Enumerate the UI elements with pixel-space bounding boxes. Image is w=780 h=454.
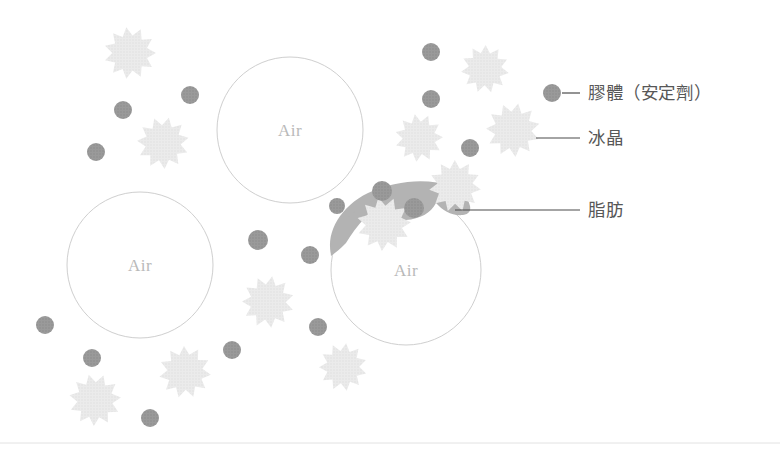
colloid-particle	[36, 316, 54, 334]
colloid-particle	[83, 349, 101, 367]
colloid-particle	[461, 139, 479, 157]
colloid-particle	[223, 341, 241, 359]
ice-crystal	[486, 104, 539, 157]
ice-crystal	[242, 276, 293, 327]
colloid-particle	[404, 198, 424, 218]
colloid-particle	[248, 230, 268, 250]
ice-crystal	[319, 343, 366, 391]
diagram-canvas: AirAirAir 膠體（安定劑）冰晶脂肪	[0, 0, 780, 454]
ice-crystal	[396, 114, 443, 161]
colloid-particle	[301, 246, 319, 264]
legend-label-colloid: 膠體（安定劑）	[588, 83, 711, 103]
ice-crystal	[159, 346, 210, 397]
colloid-particle	[141, 409, 159, 427]
ice-crystal	[461, 45, 509, 92]
legend-colloid-icon	[543, 84, 561, 102]
colloid-particle	[372, 181, 392, 201]
ice-crystal	[137, 118, 188, 169]
legend-item-colloid: 膠體（安定劑）	[543, 83, 711, 103]
ice-cream-microstructure-figure: AirAirAir 膠體（安定劑）冰晶脂肪	[0, 0, 780, 454]
colloid-particle	[87, 143, 105, 161]
legend-label-fat: 脂肪	[588, 200, 623, 220]
colloid-particle	[181, 86, 199, 104]
colloid-particle	[114, 101, 132, 119]
air-bubble-label: Air	[278, 121, 302, 140]
colloid-particle	[422, 43, 440, 61]
colloid-particle	[329, 198, 345, 214]
air-bubble-label: Air	[394, 261, 418, 280]
legend-item-fat: 脂肪	[455, 200, 623, 220]
legend-item-ice-crystal: 冰晶	[536, 128, 623, 148]
legend-group: 膠體（安定劑）冰晶脂肪	[455, 83, 711, 220]
ice-crystal	[105, 27, 156, 78]
colloid-particle	[309, 318, 327, 336]
colloid-particle	[422, 90, 440, 108]
legend-label-ice-crystal: 冰晶	[588, 128, 623, 148]
air-bubble-label: Air	[128, 256, 152, 275]
ice-crystal	[69, 375, 120, 426]
